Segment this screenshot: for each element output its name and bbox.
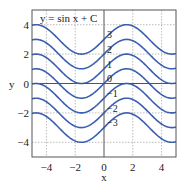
- curve-label: −2: [107, 103, 118, 114]
- y-tick-label: 4: [24, 19, 30, 31]
- chart-title: y = sin x + C: [40, 12, 97, 24]
- x-tick-label: −4: [41, 161, 53, 173]
- x-tick-label: −2: [69, 161, 81, 173]
- zero-axes: [32, 10, 176, 157]
- y-tick-labels: −4−2024: [17, 19, 29, 149]
- y-tick-label: −4: [17, 136, 29, 148]
- x-tick-label: 4: [159, 161, 165, 173]
- curve-label: 0: [107, 73, 112, 84]
- curve-label: 3: [107, 29, 112, 40]
- x-tick-label: 2: [130, 161, 136, 173]
- curve-label: −1: [107, 88, 118, 99]
- y-tick-label: 0: [24, 78, 30, 90]
- curve-label: 1: [107, 59, 112, 70]
- y-tick-label: −2: [17, 107, 29, 119]
- x-axis-label: x: [101, 171, 107, 183]
- y-tick-label: 2: [24, 48, 30, 60]
- y-axis-label: y: [9, 78, 15, 90]
- curve-label: −3: [107, 117, 118, 128]
- chart: −4−2024 −4−2024 3210−1−2−3 y = sin x + C…: [0, 0, 187, 188]
- curve-label: 2: [107, 44, 112, 55]
